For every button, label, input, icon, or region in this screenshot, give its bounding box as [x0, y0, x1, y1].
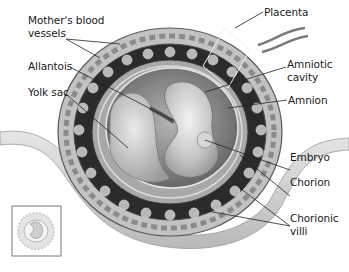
- label-amnion: Amnion: [288, 94, 327, 106]
- maternal-blood-vessels: [258, 28, 308, 52]
- label-amniotic-cavity-line2: cavity: [287, 71, 318, 83]
- label-yolk-sac: Yolk sac: [28, 86, 69, 98]
- label-amniotic-cavity-line1: Amniotic: [287, 58, 332, 70]
- label-embryo: Embryo: [290, 151, 330, 163]
- label-mothers-blood-vessels-line2: vessels: [28, 27, 66, 39]
- label-chorion: Chorion: [290, 176, 330, 188]
- label-allantois: Allantois: [28, 60, 72, 72]
- inset-thumbnail: [12, 206, 61, 256]
- label-chorionic-villi-line2: villi: [290, 225, 307, 237]
- diagram-stage: Mother's blood vessels Allantois Yolk sa…: [0, 0, 349, 272]
- label-mothers-blood-vessels-line1: Mother's blood: [28, 14, 104, 26]
- label-placenta: Placenta: [264, 6, 308, 18]
- label-chorionic-villi-line1: Chorionic: [290, 212, 339, 224]
